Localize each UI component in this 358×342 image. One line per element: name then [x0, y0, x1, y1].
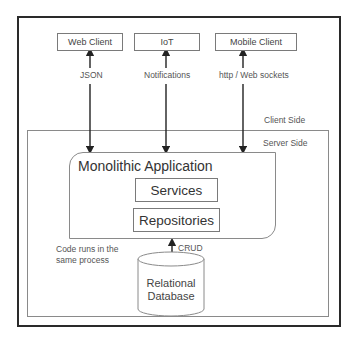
repositories-box: Repositories — [133, 208, 220, 232]
json-protocol-label: JSON — [80, 70, 103, 80]
iot-box: IoT — [134, 33, 200, 51]
relational-database: Relational Database — [138, 277, 204, 303]
web-client-label: Web Client — [68, 37, 112, 47]
mobile-client-box: Mobile Client — [215, 33, 297, 51]
database-line2: Database — [138, 290, 204, 303]
notifications-protocol-label: Notifications — [144, 70, 190, 80]
repositories-label: Repositories — [139, 213, 214, 228]
web-client-box: Web Client — [57, 33, 123, 51]
mobile-client-label: Mobile Client — [230, 37, 282, 47]
http-websockets-protocol-label: http / Web sockets — [219, 70, 289, 80]
services-box: Services — [135, 178, 218, 202]
server-side-label: Server Side — [263, 138, 307, 148]
database-line1: Relational — [138, 277, 204, 290]
process-note: Code runs in the same process — [56, 244, 118, 266]
services-label: Services — [151, 183, 203, 198]
client-side-label: Client Side — [264, 115, 305, 125]
process-note-line1: Code runs in the — [56, 244, 118, 255]
iot-label: IoT — [160, 37, 173, 47]
crud-label: CRUD — [178, 243, 203, 253]
monolithic-application-title: Monolithic Application — [78, 158, 213, 174]
process-note-line2: same process — [56, 255, 118, 266]
